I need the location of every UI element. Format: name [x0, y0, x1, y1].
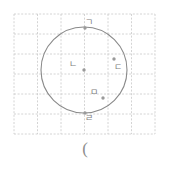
point-nieun-label: ㄴ	[69, 59, 77, 69]
geometry-figure: ㄱㄴㄷㅁㄹ (	[0, 0, 170, 169]
point-giyeok-dot	[83, 26, 86, 29]
caption-row: (	[0, 138, 170, 166]
caption-text: (	[82, 138, 88, 160]
point-rieul: ㄹ	[83, 111, 93, 122]
point-digeut-label: ㄷ	[114, 62, 122, 72]
point-digeut-dot	[112, 57, 115, 60]
point-mieum-label: ㅁ	[90, 87, 98, 97]
point-rieul-label: ㄹ	[85, 113, 93, 123]
point-giyeok-label: ㄱ	[85, 17, 93, 27]
point-mieum: ㅁ	[90, 87, 105, 100]
point-mieum-dot	[101, 96, 104, 99]
point-digeut: ㄷ	[112, 57, 122, 71]
point-nieun: ㄴ	[69, 59, 86, 72]
labeled-points: ㄱㄴㄷㅁㄹ	[69, 17, 122, 123]
point-nieun-dot	[82, 68, 85, 71]
